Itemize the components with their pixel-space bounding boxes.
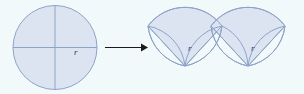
sector-shape-1	[148, 7, 222, 66]
sector-radius-label-2: r	[251, 43, 255, 53]
geometry-figure: r r r	[0, 0, 304, 94]
left-circle-group: r	[13, 6, 97, 90]
arrow-head-icon	[141, 44, 148, 52]
right-sectors-group: r r	[148, 7, 285, 66]
transformation-arrow-group	[105, 44, 148, 52]
sector-shape-2	[211, 7, 285, 66]
sector-radius-label-1: r	[188, 43, 192, 53]
circle-radius-label: r	[74, 47, 78, 57]
figure-svg: r r r	[0, 0, 304, 94]
